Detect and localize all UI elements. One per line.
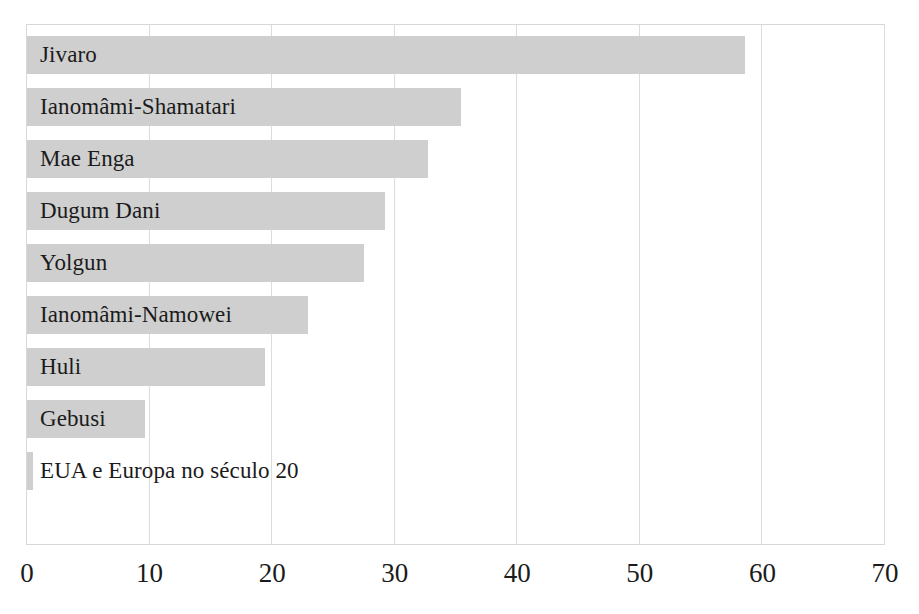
bar-row[interactable]: Ianomâmi-Namowei	[27, 296, 885, 334]
x-tick-label-40: 40	[504, 552, 531, 594]
bar[interactable]	[27, 36, 745, 74]
x-axis: 010203040506070	[0, 552, 919, 594]
bar-category-label: Yolgun	[40, 244, 107, 282]
x-tick-label-30: 30	[381, 552, 408, 594]
bar-row[interactable]: Jivaro	[27, 36, 885, 74]
bar-row[interactable]: Gebusi	[27, 400, 885, 438]
bar-chart: JivaroIanomâmi-ShamatariMae EngaDugum Da…	[0, 0, 919, 614]
x-tick-label-70: 70	[872, 552, 899, 594]
bar-category-label: Ianomâmi-Namowei	[40, 296, 232, 334]
x-tick-label-20: 20	[259, 552, 286, 594]
bar-category-label: Jivaro	[40, 36, 97, 74]
x-tick-label-0: 0	[20, 552, 34, 594]
bar-row[interactable]: Ianomâmi-Shamatari	[27, 88, 885, 126]
x-tick-label-10: 10	[136, 552, 163, 594]
x-tick-label-60: 60	[749, 552, 776, 594]
bar-row[interactable]: Huli	[27, 348, 885, 386]
bar-row[interactable]: Dugum Dani	[27, 192, 885, 230]
bar-category-label: EUA e Europa no século 20	[40, 452, 299, 490]
bar-category-label: Ianomâmi-Shamatari	[40, 88, 236, 126]
bar-row[interactable]: Yolgun	[27, 244, 885, 282]
bar-row[interactable]: Mae Enga	[27, 140, 885, 178]
bar-category-label: Huli	[40, 348, 81, 386]
bar-category-label: Mae Enga	[40, 140, 135, 178]
x-tick-label-50: 50	[626, 552, 653, 594]
bars-layer: JivaroIanomâmi-ShamatariMae EngaDugum Da…	[27, 24, 885, 545]
bar-row[interactable]: EUA e Europa no século 20	[27, 452, 885, 490]
clipped-header-text	[0, 0, 919, 14]
bar-category-label: Gebusi	[40, 400, 106, 438]
bar-category-label: Dugum Dani	[40, 192, 160, 230]
bar[interactable]	[27, 452, 33, 490]
